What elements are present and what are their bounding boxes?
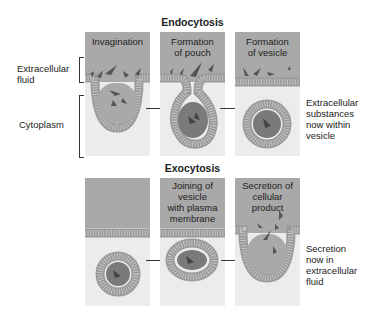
- exo-vesicle-illustration: [85, 178, 150, 306]
- title-line: Secretion of: [235, 180, 300, 191]
- result-line: extracellular: [306, 265, 357, 276]
- result-line: vesicle: [306, 130, 358, 141]
- title-line: product: [235, 202, 300, 213]
- bracket-cytoplasm: [79, 95, 84, 158]
- title-line: Joining of: [160, 180, 225, 191]
- label-line: fluid: [17, 74, 69, 85]
- result-line: Extracellular: [306, 97, 358, 108]
- bracket-extracellular: [79, 57, 84, 83]
- exocytosis-title: Exocytosis: [160, 162, 225, 174]
- panel-title: Invagination: [85, 36, 150, 47]
- label-extracellular-fluid: Extracellular fluid: [17, 63, 69, 85]
- exo-panel-vesicle: [85, 178, 150, 306]
- endo-panel-vesicle: Formation of vesicle: [235, 32, 300, 156]
- panel-title: Formation of pouch: [160, 36, 225, 58]
- label-line: Extracellular: [17, 63, 69, 74]
- title-line: Formation: [160, 36, 225, 47]
- endocytosis-result-label: Extracellular substances now within vesi…: [306, 97, 358, 141]
- exo-panel-joining: Joining of vesicle with plasma membrane: [160, 178, 225, 306]
- title-line: of pouch: [160, 47, 225, 58]
- result-line: now within: [306, 119, 358, 130]
- title-line: Formation: [235, 36, 300, 47]
- title-line: cellular: [235, 191, 300, 202]
- exocytosis-result-label: Secretion now in extracellular fluid: [306, 243, 357, 287]
- title-line: membrane: [160, 213, 225, 224]
- endo-panel-pouch: Formation of pouch: [160, 32, 225, 156]
- invagination-illustration: [85, 32, 150, 156]
- endo-panel-invagination: Invagination: [85, 32, 150, 156]
- title-line: vesicle: [160, 191, 225, 202]
- result-line: fluid: [306, 276, 357, 287]
- panel-title: Formation of vesicle: [235, 36, 300, 58]
- title-line: of vesicle: [235, 47, 300, 58]
- result-line: Secretion: [306, 243, 357, 254]
- endocytosis-title: Endocytosis: [160, 16, 225, 28]
- result-line: now in: [306, 254, 357, 265]
- result-line: substances: [306, 108, 358, 119]
- title-line: with plasma: [160, 202, 225, 213]
- panel-title: Secretion of cellular product: [235, 180, 300, 213]
- exo-panel-secretion: Secretion of cellular product: [235, 178, 300, 306]
- panel-title: Joining of vesicle with plasma membrane: [160, 180, 225, 224]
- label-cytoplasm: Cytoplasm: [19, 119, 64, 130]
